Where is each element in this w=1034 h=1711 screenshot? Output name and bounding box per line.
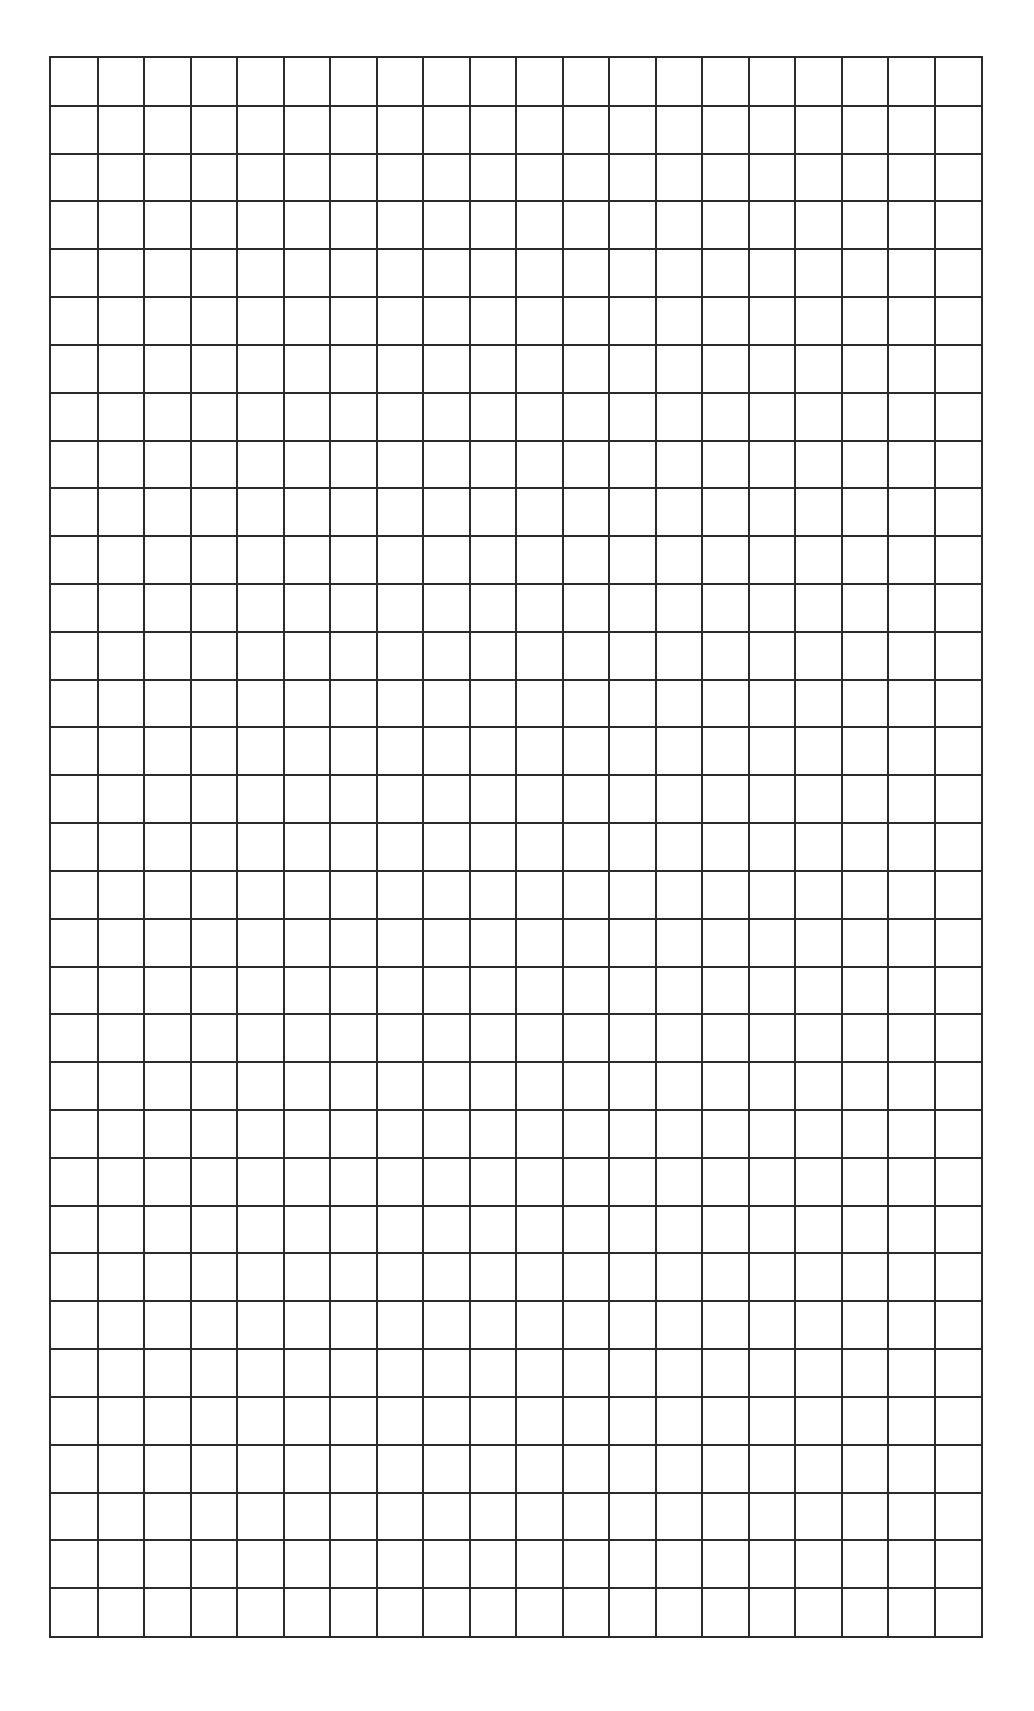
graph-paper-grid — [49, 56, 983, 1638]
grid-lines — [51, 58, 981, 1636]
